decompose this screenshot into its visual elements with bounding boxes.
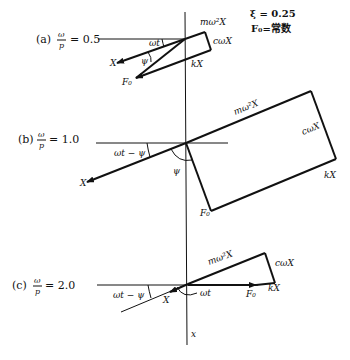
vector-diagram: x ξ = 0.25 F₀=常数 (a) ω p = 0.5 mω²X cωX … <box>0 0 350 360</box>
ratio-denominator-c: p <box>35 287 40 296</box>
vector-kx-b <box>211 159 336 211</box>
label-kx-c: kX <box>268 283 280 293</box>
case-label-c: (c) <box>12 279 27 292</box>
vector-m-omega2-x-b <box>186 91 311 143</box>
ratio-denominator-b: p <box>39 141 44 150</box>
label-c-omega-x-b: cωX <box>300 120 322 137</box>
ratio-denominator-a: p <box>59 41 64 50</box>
label-f0-c: F₀ <box>245 289 256 299</box>
axis-label-x: x <box>191 329 196 339</box>
label-omega-t-minus-psi-c: ωt − ψ <box>113 290 145 300</box>
panel-a: (a) ω p = 0.5 mω²X cωX kX X F₀ ωt ψ <box>36 17 232 87</box>
case-label-a: (a) <box>36 33 51 46</box>
label-omega-t-a: ωt <box>149 38 160 48</box>
label-x-c: X <box>162 295 170 305</box>
case-label-b: (b) <box>18 133 34 146</box>
ratio-numerator-a: ω <box>58 30 65 39</box>
label-psi-b: ψ <box>173 166 181 176</box>
force-constant-label: F₀=常数 <box>251 22 292 34</box>
ratio-value-a: = 0.5 <box>70 33 100 46</box>
ratio-numerator-c: ω <box>34 276 41 285</box>
label-m-omega2-x-c: mω²X <box>206 248 234 266</box>
label-kx-b: kX <box>324 170 336 180</box>
vector-c-omega-x-a <box>205 32 211 50</box>
panel-c: (c) ω p = 2.0 mω²X cωX kX X F₀ ωt − ψ ωt <box>12 248 294 312</box>
label-c-omega-x-a: cωX <box>213 36 232 46</box>
angle-arc-psi-a <box>148 52 151 62</box>
ratio-numerator-b: ω <box>38 130 45 139</box>
vector-c-omega-x-c <box>265 253 275 283</box>
label-m-omega2-x-a: mω²X <box>200 17 226 27</box>
panel-b: (b) ω p = 1.0 mω²X cωX kX X F₀ ωt − ψ ψ <box>18 91 336 218</box>
vector-f0-b <box>186 143 211 211</box>
label-omega-t-minus-psi-b: ωt − ψ <box>114 148 146 158</box>
label-f0-b: F₀ <box>199 208 210 218</box>
label-f0-a: F₀ <box>121 77 132 87</box>
parameter-block: ξ = 0.25 F₀=常数 <box>250 8 296 34</box>
label-c-omega-x-c: cωX <box>275 258 294 268</box>
label-x-a: X <box>109 58 117 68</box>
angle-arc-omega-t-minus-psi-b <box>147 143 150 157</box>
label-x-b: X <box>79 178 87 188</box>
label-omega-t-c: ωt <box>200 288 211 298</box>
label-kx-a: kX <box>191 59 203 69</box>
ratio-value-b: = 1.0 <box>49 133 79 146</box>
label-psi-a: ψ <box>141 56 149 66</box>
vector-m-omega2-x-a <box>185 32 205 39</box>
zeta-label: ξ = 0.25 <box>250 8 296 19</box>
angle-arc-omega-t-minus-psi-c <box>148 285 151 298</box>
ratio-value-c: = 2.0 <box>45 279 75 292</box>
